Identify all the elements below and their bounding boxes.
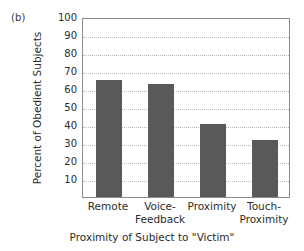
x-tick-label-line1: Touch-	[247, 200, 281, 212]
y-axis-title: Percent of Obedient Subjects	[31, 32, 43, 185]
bar	[200, 124, 226, 197]
bar-series	[83, 19, 289, 197]
bar	[96, 80, 122, 197]
x-tick-label-line1: Proximity	[188, 200, 237, 212]
x-tick-label-line1: Remote	[88, 200, 129, 212]
plot-area	[82, 18, 290, 198]
x-tick-label-line2: Proximity	[240, 213, 289, 226]
y-axis-title-container: Percent of Obedient Subjects	[28, 18, 46, 198]
y-tick-label: 60	[64, 85, 77, 95]
bar-chart-figure: (b) Percent of Obedient Subjects 1020304…	[0, 0, 304, 251]
x-tick-label: Remote	[88, 200, 129, 213]
bar	[148, 84, 174, 197]
bar	[252, 140, 278, 197]
y-tick-label: 70	[64, 67, 77, 77]
y-tick-label: 40	[64, 121, 77, 131]
y-tick-label: 10	[64, 175, 77, 185]
y-tick-label: 20	[64, 157, 77, 167]
x-tick-label-line1: Voice-	[144, 200, 176, 212]
x-axis-title: Proximity of Subject to "Victim"	[0, 231, 304, 243]
y-tick-label: 100	[58, 13, 77, 23]
y-tick-label: 80	[64, 49, 77, 59]
panel-label: (b)	[11, 12, 25, 23]
x-tick-label: Touch-Proximity	[240, 200, 289, 225]
x-tick-label: Proximity	[188, 200, 237, 213]
x-tick-label: Voice-Feedback	[135, 200, 185, 225]
y-tick-label: 30	[64, 139, 77, 149]
y-tick-label: 50	[64, 103, 77, 113]
x-axis-tick-labels: RemoteVoice-FeedbackProximityTouch-Proxi…	[82, 200, 290, 230]
y-axis-tick-labels: 102030405060708090100	[46, 18, 80, 198]
y-tick-label: 90	[64, 31, 77, 41]
x-tick-label-line2: Feedback	[135, 213, 185, 226]
